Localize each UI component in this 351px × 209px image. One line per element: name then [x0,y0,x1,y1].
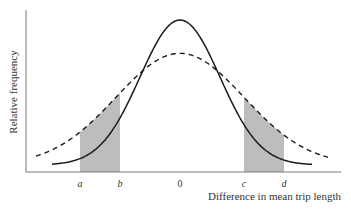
tick-label-d: d [282,178,288,189]
tick-label-c: c [242,178,247,189]
tick-label-b: b [118,178,123,189]
x-axis-label: Difference in mean trip length [208,190,341,202]
y-axis-label: Relative frequency [7,50,19,134]
shaded-region-1 [80,93,120,172]
chart: ab0cd Relative frequency Difference in m… [0,0,351,209]
series-line-wide-distribution [36,53,328,157]
tick-label-a: a [78,178,83,189]
tick-label-zero: 0 [178,178,183,189]
